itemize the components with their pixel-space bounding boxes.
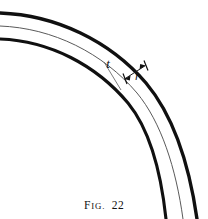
figure-drawing-canvas: t r [0, 0, 208, 219]
figure-22-illustration: t r FIG. 22 [0, 0, 208, 219]
thickness-label: t [106, 56, 110, 71]
radius-label: r [135, 69, 140, 83]
